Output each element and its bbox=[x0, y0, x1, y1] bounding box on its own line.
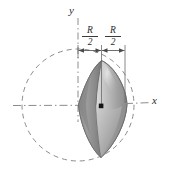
dimension-left-arrow-end bbox=[96, 48, 102, 52]
lens-solid bbox=[79, 61, 128, 158]
dimension-right-arrow-start bbox=[102, 48, 108, 52]
figure-container: y x R 2 R 2 bbox=[0, 0, 170, 173]
dimension-label-left-denominator: 2 bbox=[82, 37, 98, 47]
x-axis-line-right bbox=[125, 103, 150, 104]
y-axis-label: y bbox=[69, 5, 74, 16]
center-point-marker bbox=[99, 104, 104, 109]
dimension-label-left: R 2 bbox=[82, 26, 98, 47]
dimension-right bbox=[102, 48, 125, 52]
x-axis-label: x bbox=[152, 95, 157, 106]
dimension-label-right-denominator: 2 bbox=[105, 37, 121, 47]
dimension-label-left-numerator: R bbox=[82, 26, 98, 37]
dimension-label-right: R 2 bbox=[105, 26, 121, 47]
dimension-right-arrow-end bbox=[119, 48, 125, 52]
dimension-label-right-numerator: R bbox=[105, 26, 121, 37]
